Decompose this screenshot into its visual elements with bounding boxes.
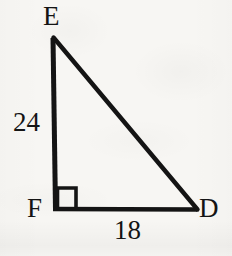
- triangle-leg-fd: [53, 209, 197, 210]
- right-angle-marker: [58, 188, 77, 209]
- triangle-leg-ef: [53, 38, 56, 210]
- vertex-label-e: E: [43, 3, 60, 30]
- geometry-figure-canvas: E F D 24 18: [0, 0, 232, 256]
- vertex-label-f: F: [27, 195, 42, 222]
- side-length-fd: 18: [114, 217, 141, 244]
- side-length-ef: 24: [13, 109, 40, 136]
- triangle-hypotenuse-ed: [54, 38, 198, 210]
- vertex-label-d: D: [199, 195, 219, 222]
